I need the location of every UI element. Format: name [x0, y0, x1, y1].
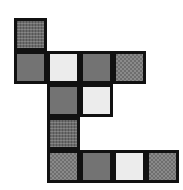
cell-r1c1	[14, 18, 47, 51]
cell-r2c3	[80, 51, 113, 84]
cell-r5c3	[80, 150, 113, 183]
cell-r2c2	[47, 51, 80, 84]
cell-r3c2	[47, 84, 80, 117]
cell-r5c5	[146, 150, 179, 183]
cell-r5c2	[47, 150, 80, 183]
cell-r2c4	[113, 51, 146, 84]
polyomino-grid-figure	[0, 0, 183, 190]
cell-r2c1	[14, 51, 47, 84]
cell-r3c3	[80, 84, 113, 117]
cell-r5c4	[113, 150, 146, 183]
cell-r4c2	[47, 117, 80, 150]
